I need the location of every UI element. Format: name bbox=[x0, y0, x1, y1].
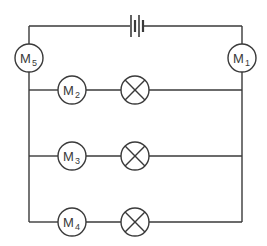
meter-m1: M 1 bbox=[228, 44, 256, 72]
circuit-diagram: M 5 M 1 M 2 M 3 bbox=[0, 0, 267, 246]
lamp-icon bbox=[121, 76, 149, 104]
meter-m2: M 2 bbox=[58, 76, 86, 104]
branch-2: M 3 bbox=[29, 142, 242, 170]
branch-1: M 2 bbox=[29, 76, 242, 104]
meter-m5-letter: M bbox=[20, 51, 31, 66]
meter-m3-letter: M bbox=[63, 149, 74, 164]
meter-m5: M 5 bbox=[15, 44, 43, 72]
meter-m1-sub: 1 bbox=[245, 58, 250, 68]
meter-m4: M 4 bbox=[58, 208, 86, 236]
meter-m3: M 3 bbox=[58, 142, 86, 170]
meter-m4-sub: 4 bbox=[75, 222, 80, 232]
battery-icon bbox=[131, 15, 143, 37]
meter-m3-sub: 3 bbox=[75, 156, 80, 166]
lamp-icon bbox=[121, 208, 149, 236]
meter-m4-letter: M bbox=[63, 215, 74, 230]
meter-m5-sub: 5 bbox=[32, 58, 37, 68]
meter-m2-letter: M bbox=[63, 83, 74, 98]
branch-3: M 4 bbox=[29, 208, 242, 236]
lamp-icon bbox=[121, 142, 149, 170]
meter-m2-sub: 2 bbox=[75, 90, 80, 100]
meter-m1-letter: M bbox=[233, 51, 244, 66]
